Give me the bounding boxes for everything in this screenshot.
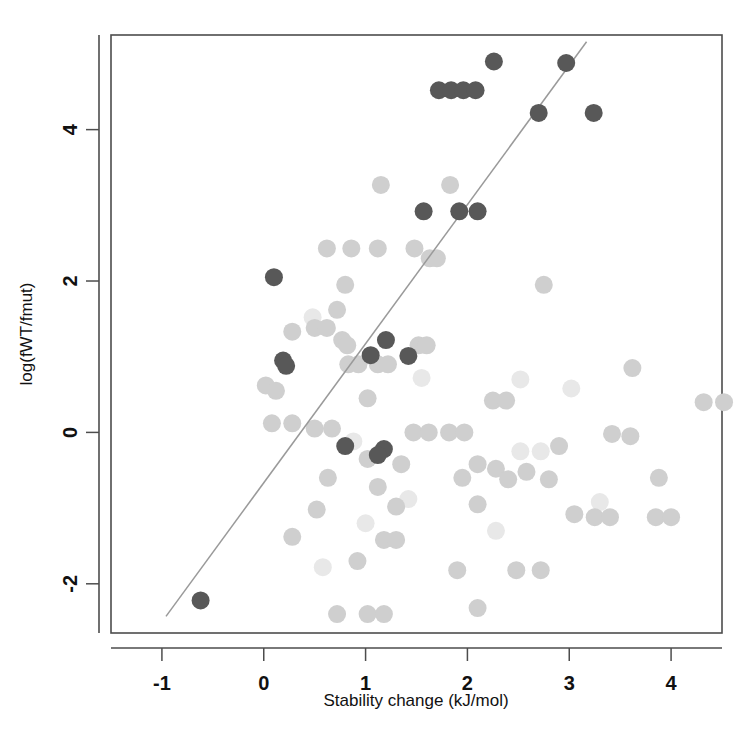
plot-frame: [111, 35, 722, 633]
y-tick-label: 0: [59, 427, 81, 438]
data-point: [318, 319, 336, 337]
data-point: [336, 276, 354, 294]
data-point: [469, 455, 487, 473]
scatter-plot-figure: -101234 -2024 Stability change (kJ/mol) …: [0, 0, 752, 749]
data-point: [399, 347, 417, 365]
data-point: [369, 446, 387, 464]
data-point: [263, 414, 281, 432]
data-point: [308, 501, 326, 519]
y-tick-label: 4: [59, 123, 81, 135]
data-point: [499, 470, 517, 488]
data-point: [623, 359, 641, 377]
data-point: [319, 469, 337, 487]
y-tick-label: -2: [59, 575, 81, 593]
data-point: [328, 301, 346, 319]
data-point: [585, 104, 603, 122]
data-point: [535, 276, 553, 294]
background-point-series: [257, 176, 733, 623]
data-point: [372, 176, 390, 194]
data-point: [621, 427, 639, 445]
data-point: [387, 498, 405, 516]
data-point: [662, 508, 680, 526]
data-point: [283, 414, 301, 432]
data-point: [323, 420, 341, 438]
data-point: [603, 425, 621, 443]
data-point: [415, 202, 433, 220]
data-point: [469, 202, 487, 220]
data-point: [405, 239, 423, 257]
data-point: [369, 478, 387, 496]
data-point: [532, 442, 550, 460]
data-point: [650, 469, 668, 487]
data-point: [379, 355, 397, 373]
data-point: [348, 552, 366, 570]
data-point: [485, 52, 503, 70]
data-point: [450, 202, 468, 220]
regression-line: [166, 42, 587, 617]
data-point: [420, 423, 438, 441]
data-point: [550, 437, 568, 455]
data-point: [375, 605, 393, 623]
data-point: [387, 531, 405, 549]
data-point: [517, 463, 535, 481]
data-point: [283, 528, 301, 546]
data-point: [715, 393, 733, 411]
data-point: [336, 437, 354, 455]
x-tick-label: -1: [153, 672, 171, 694]
data-point: [557, 54, 575, 72]
highlighted-point-series: [192, 52, 603, 609]
x-tick-label: 3: [564, 672, 575, 694]
data-point: [695, 393, 713, 411]
data-point: [318, 239, 336, 257]
data-point: [342, 239, 360, 257]
data-point: [277, 357, 295, 375]
data-point: [469, 495, 487, 513]
x-axis-ticks: -101234: [153, 648, 678, 694]
data-point: [369, 239, 387, 257]
data-point: [428, 249, 446, 267]
data-point: [392, 455, 410, 473]
data-point: [507, 561, 525, 579]
data-point: [359, 605, 377, 623]
data-point: [487, 522, 505, 540]
data-point: [469, 599, 487, 617]
data-point: [467, 81, 485, 99]
data-point: [540, 470, 558, 488]
data-point: [532, 561, 550, 579]
x-tick-label: 4: [666, 672, 678, 694]
data-point: [441, 176, 459, 194]
data-point: [455, 423, 473, 441]
x-axis-title: Stability change (kJ/mol): [323, 691, 508, 710]
data-point: [377, 331, 395, 349]
y-axis-title: log(fWT/fmut): [17, 283, 36, 386]
data-point: [418, 336, 436, 354]
data-point: [362, 346, 380, 364]
data-point: [448, 561, 466, 579]
data-point: [267, 382, 285, 400]
data-point: [357, 514, 375, 532]
data-point: [511, 442, 529, 460]
y-axis-ticks: -2024: [59, 123, 99, 593]
data-point: [565, 505, 583, 523]
data-point: [283, 323, 301, 341]
plot-canvas: -101234 -2024 Stability change (kJ/mol) …: [0, 0, 752, 749]
data-point: [413, 369, 431, 387]
data-point: [511, 370, 529, 388]
y-tick-label: 2: [59, 275, 81, 286]
data-point: [453, 469, 471, 487]
data-point: [601, 508, 619, 526]
data-point: [359, 389, 377, 407]
data-point: [328, 605, 346, 623]
data-point: [562, 380, 580, 398]
data-point: [314, 558, 332, 576]
data-point: [497, 392, 515, 410]
data-point: [338, 336, 356, 354]
data-point: [192, 591, 210, 609]
data-point: [530, 104, 548, 122]
x-tick-label: 0: [258, 672, 269, 694]
data-point: [265, 268, 283, 286]
